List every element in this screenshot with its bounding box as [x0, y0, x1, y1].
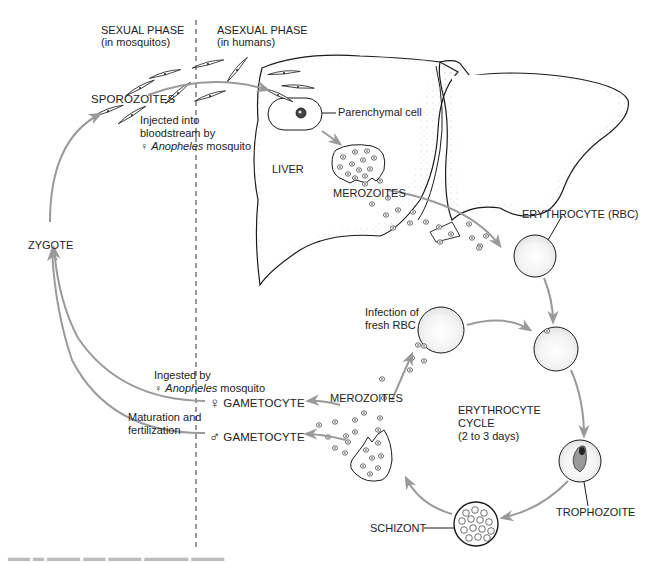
liver-label: LIVER — [272, 163, 304, 176]
female-gametocyte-text: GAMETOCYTE — [223, 397, 304, 409]
erythrocyte-rbc — [476, 216, 562, 277]
male-gametocyte-label: ♂GAMETOCYTE — [209, 430, 305, 444]
ingested-note: Ingested by ♀ Anopheles mosquito — [154, 369, 265, 395]
merozoites-liver-label: MEROZOITES — [333, 187, 406, 200]
ruptured-rbc — [316, 396, 392, 481]
schizont-cell — [424, 502, 498, 546]
maturation-note: Maturation and fertilization — [128, 411, 201, 437]
arrow-rbc-to-ring — [544, 278, 553, 322]
liver-merozoite-cluster — [332, 145, 385, 183]
clipped-caption: ▬▬ ▬ ▬▬▬ ▬▬ ▬▬▬ ▬▬▬▬ ▬▬▬ — [0, 556, 650, 563]
female-symbol-icon: ♀ — [209, 394, 220, 411]
malaria-life-cycle-diagram — [0, 0, 650, 563]
arrow-zygote-to-sporozoites — [50, 114, 100, 222]
female-symbol-icon: ♀ — [154, 382, 162, 394]
trophozoite-label: TROPHOZOITE — [556, 506, 635, 519]
liver-illustration — [254, 55, 628, 285]
parenchymal-cell-label: Parenchymal cell — [338, 106, 422, 119]
sporozoites-label: SPOROZOITES — [91, 93, 175, 106]
injected-line1: Injected into — [140, 114, 251, 127]
ingested-line1: Ingested by — [154, 369, 265, 382]
female-gametocyte-label: ♀GAMETOCYTE — [209, 396, 305, 410]
ring-stage-rbc — [534, 327, 578, 371]
schizont-label: SCHIZONT — [370, 522, 426, 535]
infection-line2: fresh RBC — [365, 319, 419, 332]
male-gametocyte-text: GAMETOCYTE — [223, 431, 304, 443]
maturation-line1: Maturation and — [128, 411, 201, 424]
arrow-fresh-to-ring — [467, 321, 530, 330]
injected-note: Injected into bloodstream by ♀ Anopheles… — [140, 114, 251, 153]
caption-text: ▬▬ ▬ ▬▬▬ ▬▬ ▬▬▬ ▬▬▬▬ ▬▬▬ — [0, 556, 650, 563]
male-symbol-icon: ♂ — [209, 428, 220, 445]
trophozoite-cell — [559, 440, 601, 506]
female-symbol-icon: ♀ — [140, 140, 148, 152]
ingested-species: Anopheles — [165, 382, 217, 394]
merozoites-blood-label: MEROZOITES — [330, 392, 403, 405]
zygote-label: ZYGOTE — [28, 239, 73, 252]
arrow-ring-to-trophozoite — [571, 370, 584, 436]
injected-suffix: mosquito — [203, 140, 251, 152]
maturation-line2: fertilization — [128, 424, 201, 437]
cycle-line1: ERYTHROCYTE — [458, 404, 541, 417]
infection-note: Infection of fresh RBC — [365, 306, 419, 332]
erythrocyte-cycle-note: ERYTHROCYTE CYCLE (2 to 3 days) — [458, 404, 541, 443]
cycle-line3: (2 to 3 days) — [458, 430, 541, 443]
cycle-line2: CYCLE — [458, 417, 541, 430]
sexual-phase-subtitle: (in mosquitos) — [101, 36, 170, 49]
ingested-suffix: mosquito — [217, 382, 265, 394]
injected-line2: bloodstream by — [140, 127, 251, 140]
erythrocyte-label: ERYTHROCYTE (RBC) — [522, 208, 639, 221]
asexual-phase-subtitle: (in humans) — [217, 36, 275, 49]
injected-species: Anopheles — [151, 140, 203, 152]
arrow-schizont-to-ruptured — [406, 478, 452, 514]
arrow-male-to-zygote — [52, 250, 205, 433]
infection-line1: Infection of — [365, 306, 419, 319]
injected-line3: ♀ Anopheles mosquito — [140, 140, 251, 153]
